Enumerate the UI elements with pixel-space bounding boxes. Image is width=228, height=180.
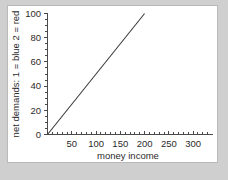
x-tick-label-300: 300 (185, 138, 201, 149)
series-line-net-demand-1 (48, 14, 145, 135)
x-tick-label-50: 50 (67, 138, 78, 149)
chart-figure-frame: 0 20 40 60 80 100 50 100 150 200 250 300… (7, 5, 218, 163)
x-tick-label-250: 250 (161, 138, 177, 149)
y-tick-label-40: 40 (30, 80, 41, 91)
y-tick-label-0: 0 (36, 129, 41, 140)
y-tick-label-60: 60 (30, 56, 41, 67)
y-tick-label-100: 100 (25, 8, 41, 19)
y-tick-label-80: 80 (30, 32, 41, 43)
chart-plot-area: 0 20 40 60 80 100 50 100 150 200 250 300… (8, 6, 217, 162)
x-tick-label-100: 100 (88, 138, 104, 149)
x-tick-label-150: 150 (112, 138, 128, 149)
y-axis-title: net demands: 1 = blue 2 = red (10, 11, 21, 138)
x-axis-major-ticks (72, 131, 193, 135)
y-tick-label-20: 20 (30, 105, 41, 116)
x-axis-title: money income (97, 150, 159, 161)
x-tick-label-200: 200 (137, 138, 153, 149)
